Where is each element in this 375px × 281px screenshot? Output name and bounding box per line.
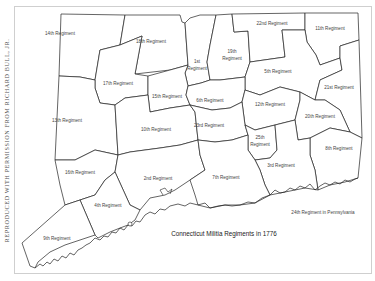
label-3rd: 3rd Regiment bbox=[267, 163, 295, 168]
label-20th: 20th Regiment bbox=[305, 114, 336, 119]
pennsylvania-note: 24th Regiment in Pennsylvania bbox=[291, 210, 355, 215]
label-25th-line1: 25th bbox=[256, 135, 265, 140]
label-16th: 16th Regiment bbox=[65, 170, 96, 175]
map-title: Connecticut Militia Regiments in 1776 bbox=[171, 230, 277, 238]
label-9th: 9th Regiment bbox=[43, 236, 71, 241]
label-7th: 7th Regiment bbox=[212, 175, 240, 180]
label-11th: 11th Regiment bbox=[315, 26, 345, 31]
label-5th: 5th Regiment bbox=[264, 69, 292, 74]
label-22nd: 22nd Regiment bbox=[256, 21, 288, 26]
label-12th: 12th Regiment bbox=[255, 102, 286, 107]
label-19th-line2: Regiment bbox=[222, 56, 242, 61]
label-19th-line1: 19th bbox=[228, 49, 237, 54]
label-1st-line1: 1st bbox=[194, 59, 201, 64]
label-15th: 15th Regiment bbox=[152, 94, 183, 99]
label-18th: 18th Regiment bbox=[136, 39, 167, 44]
region-9th bbox=[22, 200, 95, 268]
label-13th: 13th Regiment bbox=[52, 118, 83, 123]
label-6th: 6th Regiment bbox=[196, 98, 224, 103]
label-2nd: 2nd Regiment bbox=[144, 176, 173, 181]
label-17th: 17th Regiment bbox=[103, 81, 134, 86]
label-23rd: 23rd Regiment bbox=[194, 123, 225, 128]
label-14th: 14th Regiment bbox=[45, 31, 76, 36]
label-8th: 8th Regiment bbox=[325, 146, 353, 151]
label-10th: 10th Regiment bbox=[141, 127, 172, 132]
region-8th bbox=[310, 128, 362, 190]
connecticut-regiment-map: 14th Regiment 18th Regiment 1st Regiment… bbox=[0, 0, 375, 281]
label-21st: 21st Regiment bbox=[324, 85, 354, 90]
label-4th: 4th Regiment bbox=[94, 203, 122, 208]
label-25th-line2: Regiment bbox=[250, 142, 270, 147]
label-1st-line2: Regiment bbox=[187, 66, 207, 71]
